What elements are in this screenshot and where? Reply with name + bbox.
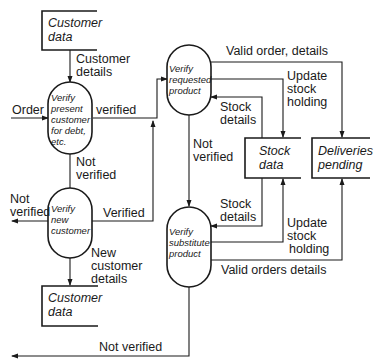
label-stock-details-top: details (220, 113, 256, 127)
label-new-customer-details: details (91, 272, 127, 286)
label-new-customer-details: New (91, 246, 117, 260)
store-stock-data: Stock data (245, 138, 301, 178)
store-label-line: data (259, 158, 283, 172)
label-not-verified-new: Not (10, 192, 30, 206)
label-update-stock-bottom: stock (287, 229, 317, 243)
process-verify-substitute-product: Verify substitute product (167, 207, 211, 287)
store-label-line: Customer (48, 16, 103, 30)
process-label-line: etc. (51, 136, 66, 147)
process-label-line: for debt, (51, 125, 86, 136)
process-label-line: customer (51, 114, 91, 125)
process-label-line: product (168, 248, 201, 259)
store-label-line: pending (317, 158, 363, 172)
label-order: Order (12, 103, 44, 117)
label-update-stock-bottom: holding (289, 242, 329, 256)
store-label-line: data (48, 305, 72, 319)
process-verify-new-customer: Verify new customer (48, 188, 92, 258)
label-not-verified-present: verified (76, 168, 116, 182)
process-verify-requested-product: Verify requested product (167, 45, 212, 115)
label-stock-details-top: Stock (220, 100, 252, 114)
label-not-verified-product: Not (193, 137, 213, 151)
store-label-line: Deliveries (318, 144, 373, 158)
label-stock-details-bottom: Stock (220, 197, 252, 211)
process-verify-present-customer: Verify present customer for debt, etc. (48, 82, 92, 154)
process-label-line: present (50, 103, 83, 114)
label-verified-new: Verified (103, 206, 145, 220)
label-stock-details-bottom: details (220, 210, 256, 224)
label-new-customer-details: customer (91, 259, 142, 273)
process-label-line: Verify (169, 226, 194, 237)
store-label-line: Customer (48, 291, 103, 305)
label-valid-orders-details: Valid orders details (221, 263, 326, 277)
process-label-line: Verify (51, 203, 76, 214)
label-update-stock-top: holding (287, 95, 327, 109)
label-not-verified-new: verified (10, 205, 50, 219)
label-customer-details: details (76, 65, 112, 79)
process-label-line: product (168, 85, 201, 96)
process-label-line: requested (169, 74, 212, 85)
store-customer-data-top: Customer data (42, 11, 103, 50)
label-update-stock-top: stock (287, 82, 317, 96)
label-update-stock-top: Update (287, 69, 327, 83)
label-valid-order-details: Valid order, details (226, 44, 328, 58)
data-flow-diagram: Customer data Customer data Stock data D… (0, 0, 378, 364)
store-label-line: data (48, 30, 72, 44)
store-deliveries-pending: Deliveries pending (312, 138, 373, 178)
label-verified-top: verified (96, 103, 136, 117)
label-not-verified-product: verified (193, 150, 233, 164)
label-customer-details: Customer (76, 52, 130, 66)
process-label-line: customer (51, 225, 91, 236)
process-label-line: substitute (169, 237, 210, 248)
process-label-line: Verify (169, 63, 194, 74)
label-update-stock-bottom: Update (287, 216, 327, 230)
store-customer-data-bottom: Customer data (42, 286, 103, 326)
process-label-line: Verify (51, 92, 76, 103)
label-not-verified-bottom: Not verified (99, 340, 162, 354)
label-not-verified-present: Not (76, 155, 96, 169)
store-label-line: Stock (259, 144, 291, 158)
process-label-line: new (51, 214, 70, 225)
